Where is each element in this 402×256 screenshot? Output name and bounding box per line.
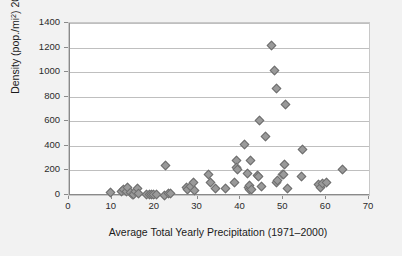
plot-area [69, 23, 369, 195]
chart-screenshot: Density (pop./mi2) 2015 0200400600800100… [0, 0, 402, 256]
x-tick-label-0: 0 [53, 201, 83, 211]
y-tick-label-200: 200 [12, 164, 60, 174]
x-tick-label-20: 20 [139, 201, 169, 211]
gridline-y-1200 [69, 48, 369, 49]
gridline-y-1400 [69, 23, 369, 24]
data-point [282, 183, 292, 193]
y-tick-label-1200: 1200 [12, 42, 60, 52]
y-axis-title-pre: Density (pop./mi [9, 18, 21, 94]
data-point [254, 172, 264, 182]
data-point [246, 156, 256, 166]
x-tick-label-40: 40 [224, 201, 254, 211]
data-point [281, 100, 291, 110]
data-point [211, 183, 221, 193]
data-point [267, 41, 277, 51]
data-point [254, 115, 264, 125]
x-tick-label-30: 30 [182, 201, 212, 211]
y-tick-label-600: 600 [12, 115, 60, 125]
data-point [230, 178, 240, 188]
gridline-y-200 [69, 170, 369, 171]
gridline-y-600 [69, 121, 369, 122]
data-point [105, 187, 115, 197]
y-tick-label-800: 800 [12, 91, 60, 101]
y-axis-title-post: ) 2015 [9, 0, 21, 14]
y-axis-line [69, 23, 70, 195]
data-point [297, 172, 307, 182]
x-tick-label-70: 70 [353, 201, 383, 211]
y-tick-label-1000: 1000 [12, 66, 60, 76]
data-point [221, 184, 231, 194]
data-point [239, 139, 249, 149]
plot-frame [68, 22, 370, 196]
gridline-y-1000 [69, 72, 369, 73]
data-point [280, 160, 290, 170]
y-tick-label-0: 0 [12, 189, 60, 199]
gridline-y-800 [69, 97, 369, 98]
gridline-y-400 [69, 146, 369, 147]
x-axis-title: Average Total Yearly Precipitation (1971… [68, 226, 368, 238]
data-point [271, 84, 281, 94]
data-point [257, 182, 267, 192]
data-point [261, 132, 271, 142]
data-point [338, 164, 348, 174]
x-tick-label-10: 10 [96, 201, 126, 211]
data-point [270, 65, 280, 75]
x-tick-label-60: 60 [310, 201, 340, 211]
y-tick-label-1400: 1400 [12, 17, 60, 27]
x-axis-line [69, 194, 369, 195]
x-tick-label-50: 50 [267, 201, 297, 211]
y-tick-label-400: 400 [12, 140, 60, 150]
data-point [160, 160, 170, 170]
